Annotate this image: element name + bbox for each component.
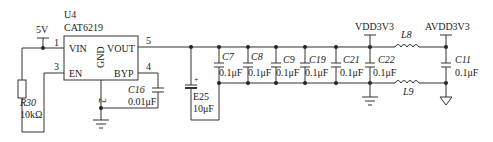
c8-ref-label: C8 [251, 51, 263, 62]
c22-value-label: 0.1μF [373, 67, 397, 78]
c16-value-label: 0.01μF [128, 96, 157, 107]
capacitor-e25-plate-negative [185, 87, 197, 89]
power-avdd3v3-symbol: AVDD3V3 [425, 21, 470, 47]
power-5v-symbol: 5V [36, 24, 49, 48]
pin-number-3: 3 [54, 61, 59, 72]
inductor-l8 [395, 45, 419, 48]
pin-number-5: 5 [146, 35, 151, 46]
pin-name-byp: BYP [114, 68, 134, 79]
pin-name-vin: VIN [69, 43, 87, 54]
pin-number-2: 2 [97, 98, 108, 103]
capacitor-c22: C22 0.1μF [365, 45, 397, 85]
c8-value-label: 0.1μF [248, 67, 272, 78]
net-label-avdd3v3: AVDD3V3 [425, 21, 470, 32]
c21-value-label: 0.1μF [340, 67, 364, 78]
pin-name-gnd: GND [95, 46, 106, 68]
c11-value-label: 0.1μF [455, 67, 479, 78]
net-label-vdd3v3: VDD3V3 [355, 21, 394, 32]
power-vdd3v3-symbol: VDD3V3 [355, 21, 394, 47]
pin-number-1: 1 [54, 37, 59, 48]
c7-value-label: 0.1μF [219, 67, 243, 78]
r30-ref-label: R30 [19, 97, 36, 108]
analog-ground-icon [440, 97, 452, 105]
resistor-r30-body [18, 80, 26, 98]
capacitor-c11: C11 0.1μF [441, 45, 479, 85]
ground-symbol [93, 120, 109, 128]
capacitor-c21: C21 0.1μF [331, 45, 364, 85]
c11-ref-label: C11 [455, 54, 471, 65]
e25-value-label: 10μF [193, 103, 214, 114]
inductor-l9 [395, 81, 419, 84]
c19-ref-label: C19 [309, 54, 326, 65]
capacitor-c8: C8 0.1μF [243, 45, 272, 85]
pin-number-4: 4 [146, 61, 151, 72]
r30-value-label: 10kΩ [20, 109, 42, 120]
pin-name-vout: VOUT [107, 43, 135, 54]
net-label-5v: 5V [36, 24, 49, 35]
c19-value-label: 0.1μF [305, 67, 329, 78]
l8-ref-label: L8 [400, 29, 412, 40]
c9-ref-label: C9 [283, 54, 295, 65]
ground-symbol [362, 97, 378, 105]
u4-ref-label: U4 [64, 9, 76, 20]
l9-ref-label: L9 [402, 86, 414, 97]
c9-value-label: 0.1μF [276, 67, 300, 78]
c7-ref-label: C7 [222, 51, 235, 62]
c16-ref-label: C16 [128, 84, 145, 95]
c22-ref-label: C22 [378, 54, 395, 65]
polarity-plus-icon: + [194, 75, 199, 84]
capacitor-c7: C7 0.1μF [214, 45, 243, 85]
schematic-canvas: 5V 1 3 R30 10kΩ U4 CAT6219 VIN EN VOUT B… [0, 0, 493, 142]
c21-ref-label: C21 [343, 54, 360, 65]
e25-ref-label: E25 [193, 91, 209, 102]
u4-part-label: CAT6219 [64, 22, 103, 33]
pin-name-en: EN [69, 68, 82, 79]
capacitor-c9: C9 0.1μF [271, 45, 300, 85]
capacitor-c19: C19 0.1μF [300, 45, 329, 85]
